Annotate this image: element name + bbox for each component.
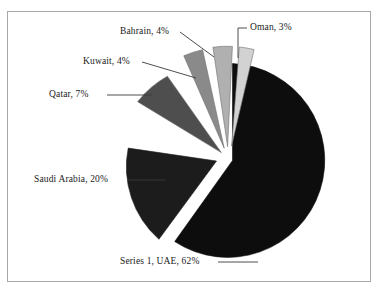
pie-chart-canvas xyxy=(0,0,379,294)
pie-slice-bahrain[interactable] xyxy=(213,46,233,146)
slice-label-oman: Oman, 3% xyxy=(250,23,292,33)
slice-label-bahrain: Bahrain, 4% xyxy=(120,27,169,37)
slice-label-saudi-arabia: Saudi Arabia, 20% xyxy=(34,175,108,185)
slice-label-qatar: Qatar, 7% xyxy=(49,90,88,100)
slice-label-kuwait: Kuwait, 4% xyxy=(83,57,130,67)
pie-chart-figure: Series 1, UAE, 62% Saudi Arabia, 20% Qat… xyxy=(0,0,379,294)
slice-label-uae: Series 1, UAE, 62% xyxy=(120,257,199,267)
